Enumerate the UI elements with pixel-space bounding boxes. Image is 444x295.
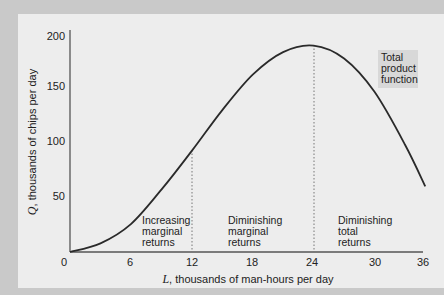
x-axis-label: L, thousands of man-hours per day	[161, 272, 334, 286]
curve-label: Total product function	[378, 50, 418, 88]
x-tick-label: 0	[61, 256, 67, 268]
y-tick-label: 150	[47, 80, 65, 92]
x-tick-label: 6	[127, 256, 133, 268]
annotation-line: returns	[338, 236, 371, 248]
y-tick-label: 100	[47, 135, 65, 147]
x-tick-label: 30	[369, 256, 381, 268]
annotation-diminishing-marginal: Diminishing marginal returns	[228, 214, 282, 248]
y-tick-label: 50	[53, 190, 65, 202]
y-axis-label: Q, thousands of chips per day	[25, 68, 39, 215]
x-tick-label: 18	[246, 256, 258, 268]
x-tick-label: 24	[306, 256, 318, 268]
annotation-line: returns	[228, 236, 261, 248]
total-product-chart: 200 150 100 50 0 6 12 18 24 30 36 L, tho…	[0, 0, 444, 295]
curve-label-line: function	[381, 73, 418, 85]
y-axis-var: Q	[25, 206, 39, 215]
y-axis-label-text: , thousands of chips per day	[26, 68, 38, 206]
x-axis-label-text: , thousands of man-hours per day	[169, 273, 334, 285]
y-tick-label: 200	[47, 30, 65, 42]
annotation-diminishing-total: Diminishing total returns	[338, 214, 392, 248]
x-tick-label: 36	[417, 256, 429, 268]
annotation-line: returns	[142, 236, 175, 248]
annotation-increasing-marginal: Increasing marginal returns	[142, 214, 191, 248]
x-tick-label: 12	[186, 256, 198, 268]
